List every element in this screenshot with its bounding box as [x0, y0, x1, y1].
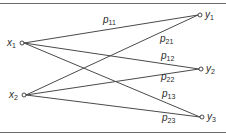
label-x1: x1	[6, 37, 16, 49]
node-x1	[20, 41, 24, 45]
node-y3	[200, 115, 204, 119]
label-p12: p12	[160, 50, 174, 62]
channel-diagram: x1 x2 y1 y2 y3 p11 p21 p12 p22 p13 p23	[0, 0, 226, 139]
label-y3: y3	[206, 111, 216, 123]
node-x2	[22, 93, 26, 97]
label-p13: p13	[161, 88, 175, 100]
label-y2: y2	[205, 63, 215, 75]
label-p11: p11	[102, 14, 116, 26]
label-x2: x2	[8, 89, 18, 101]
node-y1	[198, 13, 202, 17]
label-y1: y1	[204, 9, 214, 21]
label-p21: p21	[159, 33, 173, 45]
node-y2	[199, 67, 203, 71]
edges	[24, 15, 200, 117]
